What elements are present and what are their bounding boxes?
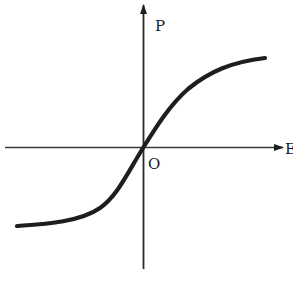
polarization-curve bbox=[17, 58, 265, 226]
p-e-diagram: P O E bbox=[0, 0, 293, 287]
origin-label: O bbox=[148, 155, 160, 173]
p-axis-label: P bbox=[155, 17, 165, 35]
e-axis-label: E bbox=[285, 140, 293, 158]
